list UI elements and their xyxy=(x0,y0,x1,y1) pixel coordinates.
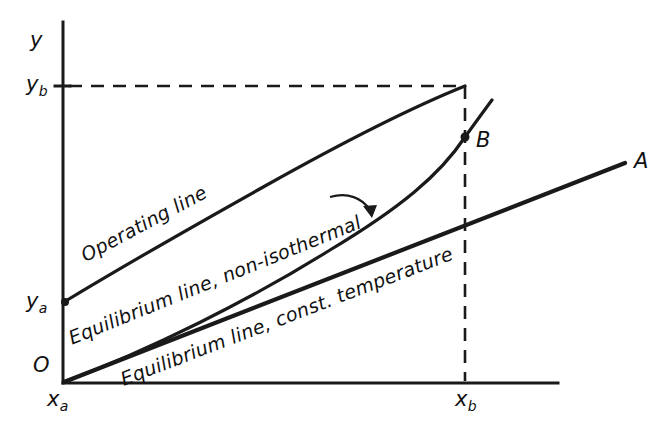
non-isothermal-arrow-head xyxy=(363,205,377,218)
x-a-tick-label: xa xyxy=(47,389,69,410)
x-b-tick-label-base: x xyxy=(455,387,468,411)
point-ya-marker xyxy=(61,298,69,306)
y-b-tick-label-base: y xyxy=(26,72,39,96)
point-b-marker xyxy=(461,133,470,142)
origin-label: O xyxy=(33,355,50,376)
x-a-tick-label-base: x xyxy=(47,387,60,411)
y-b-tick-label: yb xyxy=(26,74,48,95)
x-b-tick-label-sub: b xyxy=(468,398,477,414)
equilibrium-operating-line-diagram: y yb ya O xa xb B A Operating line Equil… xyxy=(0,0,672,428)
point-a-label: A xyxy=(634,151,649,172)
chart-canvas xyxy=(0,0,672,428)
y-a-tick-label-base: y xyxy=(26,289,39,313)
x-b-tick-label: xb xyxy=(455,389,477,410)
x-a-tick-label-sub: a xyxy=(60,398,69,414)
y-b-tick-label-sub: b xyxy=(39,83,48,99)
y-a-tick-label-sub: a xyxy=(39,300,48,316)
point-b-label: B xyxy=(476,130,491,151)
y-axis-label: y xyxy=(30,30,43,51)
non-isothermal-arrow-shaft xyxy=(330,195,370,210)
y-a-tick-label: ya xyxy=(26,291,48,312)
